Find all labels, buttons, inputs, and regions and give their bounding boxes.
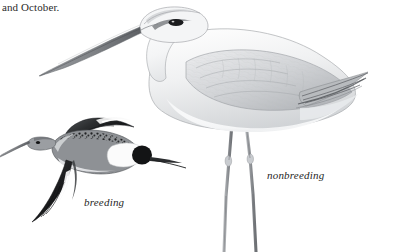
standing-bird-eye: [169, 19, 184, 26]
standing-bird-legs: [224, 123, 256, 252]
flying-bird-eye: [36, 141, 40, 144]
flying-bird-bill: [0, 141, 30, 157]
standing-bird-body: [149, 29, 368, 132]
plumage-label-nonbreeding: nonbreeding: [267, 169, 324, 181]
shorebird-illustration: [0, 0, 404, 252]
flying-bird-head: [0, 137, 56, 157]
illustration-page: and October.: [0, 0, 404, 252]
flying-bird-tail-band: [132, 146, 152, 165]
plumage-label-breeding: breeding: [84, 196, 124, 208]
standing-bird-bill: [39, 25, 141, 76]
flying-bird-tail: [107, 143, 186, 168]
flying-bird-lower-wing: [32, 160, 77, 222]
